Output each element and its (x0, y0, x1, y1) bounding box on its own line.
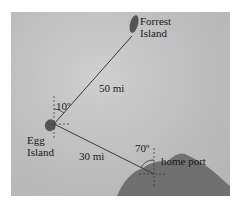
egg-island-label: Egg Island (27, 134, 54, 158)
map-diagram: Forrest Island 50 mi 10º Egg Island 30 m… (11, 12, 230, 196)
egg-island-label-line1: Egg (27, 134, 54, 146)
angle-home-port: 70º (135, 142, 149, 154)
distance-egg-to-home: 30 mi (79, 150, 104, 162)
forrest-island-label-line2: Island (140, 27, 171, 39)
distance-egg-to-forrest: 50 mi (99, 82, 124, 94)
forrest-island-label-line1: Forrest (140, 15, 171, 27)
forrest-island-shape (128, 14, 140, 33)
forrest-island-label: Forrest Island (140, 15, 171, 39)
angle-egg-island: 10º (56, 100, 70, 112)
home-port-label: home port (161, 155, 206, 167)
egg-island-label-line2: Island (27, 146, 54, 158)
map-graphics (11, 12, 230, 196)
